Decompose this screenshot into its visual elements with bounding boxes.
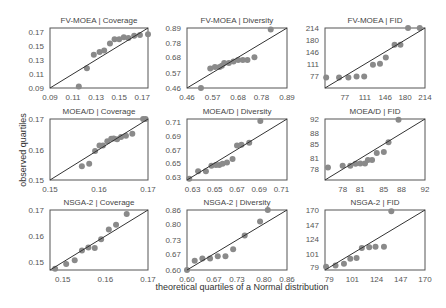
data-point xyxy=(230,156,236,162)
panel-title: NSGA-2 | Diversity xyxy=(204,198,271,207)
y-tick-label: 85 xyxy=(310,140,319,149)
qq-plot-figure: FV-MOEA | Coverage0.090.110.130.150.170.… xyxy=(0,0,446,308)
x-tick-label: 0.11 xyxy=(66,93,82,102)
data-point xyxy=(381,149,387,155)
qq-panel: FV-MOEA | Diversity0.460.570.680.780.890… xyxy=(165,16,295,102)
y-tick-label: 0.60 xyxy=(165,266,181,275)
y-tick-label: 81 xyxy=(310,154,319,163)
data-point xyxy=(79,163,85,169)
y-tick-label: 77 xyxy=(310,72,319,81)
x-tick-label: 0.15 xyxy=(42,185,58,194)
data-point xyxy=(373,244,379,250)
data-point xyxy=(354,73,360,79)
y-tick-label: 0.15 xyxy=(28,258,44,267)
y-tick-label: 0.67 xyxy=(165,250,181,259)
data-point xyxy=(388,208,394,214)
x-tick-label: 0.15 xyxy=(111,93,127,102)
x-tick-label: 0.71 xyxy=(274,185,290,194)
data-point xyxy=(257,219,263,225)
y-tick-label: 111 xyxy=(307,60,320,69)
y-tick-label: 0.63 xyxy=(165,173,181,182)
data-point xyxy=(374,150,380,156)
x-tick-label: 0.15 xyxy=(55,275,71,284)
x-tick-label: 0.63 xyxy=(185,185,201,194)
y-tick-label: 0.86 xyxy=(165,206,181,215)
y-tick-label: 0.67 xyxy=(165,146,181,155)
reference-line xyxy=(325,119,425,180)
y-tick-label: 0.65 xyxy=(165,159,181,168)
qq-panel: NSGA-2 | FID7910112414717079101124147170 xyxy=(306,198,433,284)
y-tick-label: 0.17 xyxy=(28,28,44,37)
data-point xyxy=(325,164,331,170)
x-tick-label: 180 xyxy=(398,93,412,102)
y-tick-label: 0.16 xyxy=(28,232,44,241)
x-tick-label: 78 xyxy=(338,185,347,194)
x-tick-label: 0.69 xyxy=(251,185,267,194)
data-point xyxy=(369,157,375,163)
reference-line xyxy=(325,28,425,88)
y-tick-label: 0.73 xyxy=(165,236,181,245)
y-tick-label: 0.17 xyxy=(28,206,44,215)
data-point xyxy=(361,73,367,79)
data-point xyxy=(106,227,112,233)
data-point xyxy=(222,253,228,259)
qq-panel: MOEA/D | FID78818588927881858892 xyxy=(310,107,430,194)
data-point xyxy=(215,253,221,259)
y-tick-label: 0.80 xyxy=(165,220,181,229)
data-point xyxy=(381,244,387,250)
x-tick-label: 111 xyxy=(359,93,372,102)
x-tick-label: 146 xyxy=(379,93,393,102)
y-tick-label: 146 xyxy=(306,48,320,57)
data-point xyxy=(257,118,263,124)
x-axis-label: theoretical quartiles of a Normal distri… xyxy=(155,282,328,292)
data-point xyxy=(396,117,402,123)
data-point xyxy=(244,57,250,63)
x-tick-label: 0.17 xyxy=(140,185,156,194)
y-tick-label: 0.09 xyxy=(28,84,44,93)
y-tick-label: 78 xyxy=(310,165,319,174)
y-tick-label: 0.16 xyxy=(28,146,44,155)
data-point xyxy=(92,245,98,251)
x-tick-label: 88 xyxy=(397,185,406,194)
panel-title: NSGA-2 | Coverage xyxy=(64,198,136,207)
data-point xyxy=(268,26,274,32)
x-tick-label: 147 xyxy=(394,275,408,284)
data-point xyxy=(323,74,329,80)
panel-title: MOEA/D | Coverage xyxy=(63,107,136,116)
qq-panel: NSGA-2 | Coverage0.150.160.170.150.160.1… xyxy=(28,198,156,284)
data-point xyxy=(76,84,82,90)
x-tick-label: 77 xyxy=(340,93,349,102)
qq-panel: FV-MOEA | Coverage0.090.110.130.150.170.… xyxy=(28,16,151,102)
x-tick-label: 81 xyxy=(356,185,365,194)
panel-title: MOEA/D | Diversity xyxy=(203,107,272,116)
data-point xyxy=(224,159,230,165)
x-tick-label: 124 xyxy=(370,275,384,284)
y-tick-label: 79 xyxy=(310,263,319,272)
panel-title: FV-MOEA | FID xyxy=(348,16,403,25)
y-tick-label: 0.46 xyxy=(165,84,181,93)
data-point xyxy=(354,255,360,261)
y-tick-label: 214 xyxy=(306,24,320,33)
panel-title: MOEA/D | FID xyxy=(350,107,401,116)
data-point xyxy=(383,54,389,60)
y-tick-label: 101 xyxy=(306,250,320,259)
qq-panel: FV-MOEA | FID771111461802147711114618021… xyxy=(306,16,433,102)
qq-panel: MOEA/D | Diversity0.630.650.670.690.710.… xyxy=(165,107,289,194)
reference-line xyxy=(50,210,148,270)
data-point xyxy=(377,61,383,67)
x-tick-label: 214 xyxy=(418,93,432,102)
y-tick-label: 180 xyxy=(306,36,320,45)
data-point xyxy=(145,31,151,37)
x-tick-label: 0.09 xyxy=(42,93,58,102)
data-point xyxy=(91,52,97,58)
x-tick-label: 0.17 xyxy=(134,93,150,102)
data-point xyxy=(113,222,119,228)
y-tick-label: 147 xyxy=(306,221,320,230)
y-tick-label: 124 xyxy=(306,235,320,244)
reference-line xyxy=(50,28,148,88)
x-tick-label: 170 xyxy=(418,275,432,284)
y-tick-label: 0.17 xyxy=(28,115,44,124)
x-tick-label: 0.57 xyxy=(205,93,221,102)
y-tick-label: 0.13 xyxy=(28,56,44,65)
x-tick-label: 0.78 xyxy=(254,93,270,102)
